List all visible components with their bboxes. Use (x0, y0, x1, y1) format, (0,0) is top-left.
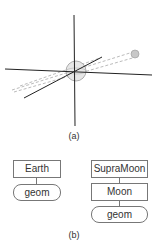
node-supramoon: SupraMoon (91, 160, 148, 178)
node-moon: Moon (91, 183, 148, 201)
node-earth-geom: geom (13, 184, 61, 201)
diagonal-axis (24, 57, 102, 98)
node-earth: Earth (13, 160, 61, 178)
scene-3d-view (0, 0, 162, 130)
caption-a: (a) (64, 131, 84, 141)
moon-sphere (131, 50, 139, 58)
caption-b: (b) (64, 230, 84, 240)
node-moon-geom: geom (91, 206, 148, 223)
vertical-axis (74, 15, 75, 126)
